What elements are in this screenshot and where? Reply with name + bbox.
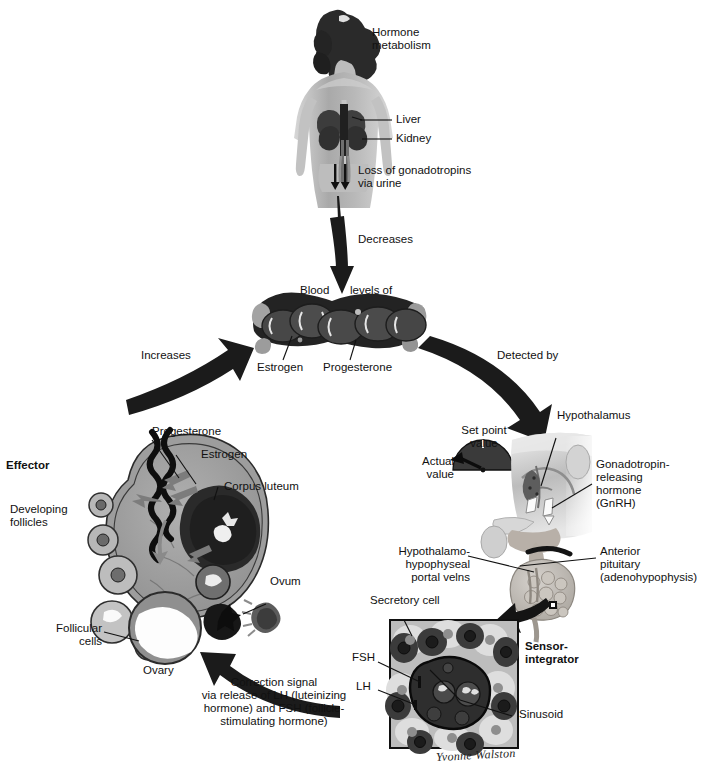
ovary-illustration [88,430,281,664]
decreases-arrow [330,196,354,294]
label-blood: Blood [300,284,329,297]
label-follicular-cells: Follicular cells [22,622,102,648]
label-set-point-value: Set point value [449,424,519,450]
label-effector: Effector [6,459,49,472]
label-sensor-integrator: Sensor- integrator [525,640,579,666]
blood-levels-illustration [252,292,426,360]
label-portal-veins: Hypothalamo- hypophyseal portal velns [380,545,470,584]
label-corpus-luteum: Corpus luteum [224,480,299,493]
label-fsh: FSH [352,651,375,664]
label-sinusoid: Sinusoid [519,708,563,721]
label-progesterone-blood: Progesterone [323,361,392,374]
label-anterior-pituitary: Anterior pituitary (adenohypophysis) [600,545,697,584]
label-developing-follicles: Developing follicles [10,503,68,529]
label-decreases: Decreases [358,233,413,246]
label-kidney: Kidney [396,132,431,145]
label-gnrh: Gonadotropin- releasing hormone (GnRH) [596,458,670,510]
label-estrogen-ovary: Estrogen [201,448,247,461]
figure-canvas: Hormone metabolism Liver Kidney Loss of … [0,0,704,774]
label-liver: Liver [396,113,421,126]
label-hormone-metabolism: Hormone metabolism [372,26,431,52]
label-loss-gonadotropins: Loss of gonadotropins via urine [358,164,471,190]
micrograph-panel [378,620,519,756]
label-ovum: Ovum [270,575,301,588]
label-estrogen-blood: Estrogen [257,361,303,374]
ovum [242,600,281,636]
label-levels-of: levels of [350,284,392,297]
label-increases: Increases [141,349,191,362]
label-hypothalamus: Hypothalamus [557,409,631,422]
label-progesterone-ovary: Progesterone [152,425,221,438]
label-secretory-cell: Secretory cell [370,594,440,607]
label-actual-value: Actual value [412,455,454,481]
label-correction-signal: Correction signal via release of LH (lut… [164,676,384,728]
label-detected-by: Detected by [497,349,558,362]
